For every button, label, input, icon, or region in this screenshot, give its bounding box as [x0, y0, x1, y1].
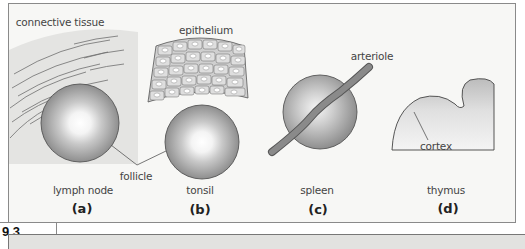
panel-a-letter: (a) — [72, 201, 93, 216]
connective-tissue-label: connective tissue — [16, 16, 104, 28]
panel-a-name: lymph node — [53, 184, 113, 196]
cortex-label: cortex — [420, 140, 452, 152]
arteriole-label: arteriole — [351, 50, 394, 62]
panel-d-letter: (d) — [437, 201, 458, 216]
next-section-band — [8, 234, 525, 249]
epithelium-cells — [148, 38, 248, 102]
panel-d-name: thymus — [427, 184, 465, 196]
panel-c-letter: (c) — [308, 202, 328, 217]
panel-b-name: tonsil — [186, 184, 213, 196]
tonsil-follicle — [165, 105, 239, 179]
follicle-label: follicle — [120, 170, 152, 182]
epithelium-label: epithelium — [179, 24, 233, 36]
panel-b-letter: (b) — [189, 202, 210, 217]
panel-c-name: spleen — [300, 184, 333, 196]
lymph-node-follicle — [41, 84, 119, 162]
